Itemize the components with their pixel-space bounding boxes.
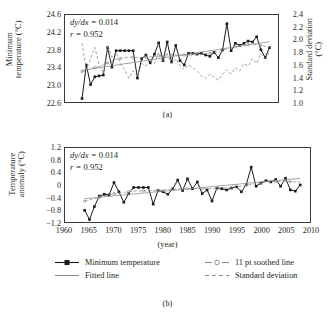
panel-a-rtick-3: 1.8: [293, 48, 303, 57]
panel-a-caption: (a): [0, 110, 335, 119]
legend-label-1: Fitted line: [85, 271, 119, 280]
legend-item-11pt-soothed-line: 11 pt soothed line: [204, 258, 294, 267]
legend-label-3: Standard deviation: [235, 271, 297, 280]
panel-a-right-axis-title-line2: (°C): [314, 4, 323, 94]
panel-a-right-axis-title-line1: Standard deviation: [305, 4, 314, 94]
panel-a-y-axis-title: Minimum temperature (°C): [5, 13, 23, 85]
panel-b: Temperature anomaly (°C) 1.2 0.8 0.4 0 −…: [0, 133, 335, 319]
panel-a-y-axis-title-line1: Minimum: [5, 13, 14, 85]
legend-key-dashed-line-icon: [204, 271, 230, 280]
panel-b-y-tick-labels: 1.2 0.8 0.4 0 −0.4 −0.8 −1.2: [38, 147, 61, 223]
panel-a-ytick-3: 23.4: [47, 63, 61, 72]
panel-a-slope-value: 0.014: [99, 17, 118, 27]
panel-a-ytick-5: 22.6: [47, 99, 61, 108]
panel-a-rtick-0: 2.4: [293, 10, 303, 19]
panel-a-ytick-4: 23.0: [47, 81, 61, 90]
legend-key-solid-line-icon: [54, 271, 80, 280]
panel-b-ytick-3: 0: [57, 181, 61, 190]
panel-b-slope-value: 0.014: [99, 150, 118, 160]
panel-a-r-label: r =: [70, 29, 83, 39]
panel-b-xtick-7: 1995: [229, 226, 245, 235]
panel-b-xtick-10: 2010: [303, 226, 319, 235]
panel-b-r-label: r =: [70, 162, 83, 172]
panel-b-ytick-1: 0.8: [51, 155, 61, 164]
panel-a-rtick-4: 1.6: [293, 60, 303, 69]
panel-a-rtick-5: 1.4: [293, 73, 303, 82]
panel-b-xtick-5: 1985: [179, 226, 195, 235]
figure-container: Minimum temperature (°C) 24.6 24.2 23.8 …: [0, 0, 335, 319]
panel-b-xtick-8: 2000: [253, 226, 269, 235]
panel-a: Minimum temperature (°C) 24.6 24.2 23.8 …: [0, 0, 335, 128]
panel-b-annotation-slope: dy/dx = 0.014: [70, 150, 118, 160]
panel-b-x-axis-title: (year): [0, 240, 335, 249]
panel-b-xtick-4: 1980: [155, 226, 171, 235]
panel-a-annotation-r: r = 0.952: [70, 29, 103, 39]
panel-a-r-value: 0.952: [83, 29, 102, 39]
panel-a-plot-area: [64, 14, 279, 103]
panel-a-right-tick-labels: 2.4 2.2 2.0 1.8 1.6 1.4 1.2 1.0: [281, 14, 303, 103]
legend-key-dashed-circle-marker-icon: [204, 258, 230, 267]
legend-item-minimum-temperature: Minimum temperature: [54, 258, 160, 267]
panel-b-annotation-r: r = 0.952: [70, 162, 103, 172]
panel-b-ytick-4: −0.4: [46, 193, 61, 202]
panel-a-slope-label: dy/dx =: [70, 17, 99, 27]
panel-b-xtick-1: 1965: [81, 226, 97, 235]
panel-b-y-axis-title: Temperature anomaly (°C): [8, 141, 26, 207]
panel-a-rtick-6: 1.2: [293, 86, 303, 95]
panel-b-xtick-6: 1990: [204, 226, 220, 235]
panel-a-rtick-2: 2.0: [293, 35, 303, 44]
panel-a-y-tick-labels: 24.6 24.2 23.8 23.4 23.0 22.6: [22, 14, 61, 103]
panel-a-right-axis-title: Standard deviation (°C): [305, 4, 323, 94]
legend-label-0: Minimum temperature: [85, 258, 160, 267]
panel-b-xtick-3: 1975: [130, 226, 146, 235]
legend-item-fitted-line: Fitted line: [54, 271, 119, 280]
panel-b-ytick-2: 0.4: [51, 168, 61, 177]
panel-a-rtick-7: 1.0: [293, 99, 303, 108]
panel-b-ytick-5: −0.8: [46, 206, 61, 215]
panel-b-ytick-0: 1.2: [51, 143, 61, 152]
legend-key-solid-square-marker-icon: [54, 258, 80, 267]
panel-b-x-tick-labels: 1960 1965 1970 1975 1980 1985 1990 1995 …: [64, 226, 311, 237]
panel-b-y-axis-title-line2: anomaly (°C): [17, 141, 26, 207]
legend-item-standard-deviation: Standard deviation: [204, 271, 297, 280]
panel-b-xtick-9: 2005: [278, 226, 294, 235]
panel-a-ytick-0: 24.6: [47, 10, 61, 19]
legend-label-2: 11 pt soothed line: [235, 258, 294, 267]
panel-b-y-axis-title-line1: Temperature: [8, 141, 17, 207]
panel-a-annotation-slope: dy/dx = 0.014: [70, 17, 118, 27]
panel-b-slope-label: dy/dx =: [70, 150, 99, 160]
panel-b-xtick-0: 1960: [56, 226, 72, 235]
panel-b-r-value: 0.952: [83, 162, 102, 172]
panel-b-caption: (b): [0, 299, 335, 308]
panel-a-ytick-2: 23.8: [47, 45, 61, 54]
panel-a-ytick-1: 24.2: [47, 27, 61, 36]
panel-a-rtick-1: 2.2: [293, 22, 303, 31]
panel-b-xtick-2: 1970: [105, 226, 121, 235]
